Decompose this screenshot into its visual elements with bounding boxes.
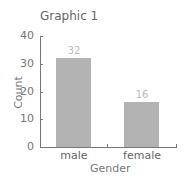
- x-label-female: female: [117, 149, 167, 162]
- bar-value-female: 16: [124, 89, 160, 100]
- y-tick-label-10: 10: [14, 112, 34, 125]
- y-tick-label-30: 30: [14, 57, 34, 70]
- bar-value-male: 32: [56, 45, 92, 56]
- y-tick-label-0: 0: [14, 140, 34, 153]
- x-axis-title: Gender: [90, 162, 131, 175]
- y-tick-10: [40, 119, 43, 120]
- y-tick-40: [40, 36, 43, 37]
- y-tick-label-40: 40: [14, 29, 34, 42]
- x-tick-end: [176, 144, 177, 147]
- y-tick-20: [40, 92, 43, 93]
- bar-male: [56, 58, 91, 147]
- x-tick-mid: [107, 144, 108, 147]
- bar-female: [124, 102, 159, 147]
- y-axis-title: Count: [12, 73, 25, 113]
- x-axis-line: [40, 147, 177, 148]
- x-label-male: male: [49, 149, 99, 162]
- chart-title: Graphic 1: [40, 9, 98, 23]
- y-tick-30: [40, 64, 43, 65]
